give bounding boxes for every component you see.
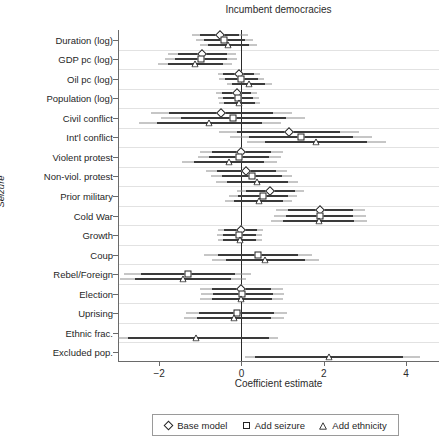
y-axis-tick — [113, 313, 118, 314]
y-axis-title: Seizure — [0, 175, 6, 207]
legend-item-square[interactable]: Add seizure — [242, 420, 305, 431]
y-axis-tick-label: Rebel/Foreign — [0, 269, 113, 280]
estimate-marker-square — [254, 251, 261, 258]
estimate-marker-triangle — [245, 80, 252, 87]
y-axis-line — [118, 30, 119, 362]
estimate-marker-triangle — [193, 334, 200, 341]
y-axis-tick — [113, 98, 118, 99]
y-axis-tick-label: Population (log) — [0, 93, 113, 104]
x-axis-tick — [241, 361, 242, 366]
grid-line — [118, 89, 439, 90]
estimate-marker-triangle — [226, 159, 233, 166]
chart-legend: Base modelAdd seizureAdd ethnicity — [152, 414, 399, 436]
grid-line — [118, 108, 439, 109]
plot-panel: −2024 — [118, 30, 439, 362]
estimate-marker-triangle — [206, 119, 213, 126]
y-axis-tick-label: Violent protest — [0, 151, 113, 162]
y-axis-tick — [113, 176, 118, 177]
y-axis-tick — [113, 294, 118, 295]
y-axis-tick — [113, 216, 118, 217]
grid-line — [118, 147, 439, 148]
grid-line — [118, 303, 439, 304]
legend-diamond-icon — [164, 421, 172, 429]
y-axis-tick — [113, 352, 118, 353]
y-axis-tick-label: Non-viol. protest — [0, 171, 113, 182]
y-axis-tick — [113, 79, 118, 80]
estimate-marker-triangle — [315, 217, 322, 224]
y-axis-tick — [113, 118, 118, 119]
x-axis-line — [118, 361, 439, 362]
legend-triangle-icon — [319, 421, 327, 429]
estimate-marker-triangle — [225, 41, 232, 48]
y-axis-tick-label: Excluded pop. — [0, 347, 113, 358]
y-axis-tick-label: Ethnic frac. — [0, 327, 113, 338]
y-axis-tick — [113, 40, 118, 41]
y-axis-tick — [113, 235, 118, 236]
y-axis-tick — [113, 255, 118, 256]
grid-line — [118, 284, 439, 285]
estimate-marker-triangle — [313, 139, 320, 146]
y-axis-tick-label: Coup — [0, 249, 113, 260]
y-axis-tick-label: Duration (log) — [0, 34, 113, 45]
legend-item-diamond[interactable]: Base model — [164, 420, 227, 431]
y-axis-tick-label: Oil pc (log) — [0, 73, 113, 84]
legend-square-icon — [242, 421, 250, 429]
grid-line — [118, 50, 439, 51]
x-axis-tick — [159, 361, 160, 366]
grid-line — [118, 323, 439, 324]
estimate-marker-square — [298, 134, 305, 141]
grid-line — [118, 342, 439, 343]
estimate-marker-square — [236, 153, 243, 160]
chart-title: Incumbent democracies — [118, 4, 439, 15]
estimate-marker-triangle — [254, 178, 261, 185]
estimate-marker-triangle — [325, 354, 332, 361]
chart-root: Incumbent democracies Duration (log)GDP … — [0, 0, 439, 444]
x-axis-tick — [324, 361, 325, 366]
y-axis-labels: Duration (log)GDP pc (log)Oil pc (log)Po… — [0, 30, 113, 362]
estimate-marker-triangle — [192, 61, 199, 68]
y-axis-tick-label: Civil conflict — [0, 112, 113, 123]
y-axis-tick — [113, 137, 118, 138]
y-axis-tick-label: Growth — [0, 230, 113, 241]
y-axis-tick-label: Int'l conflict — [0, 132, 113, 143]
x-axis-title: Coefficient estimate — [118, 378, 439, 389]
y-axis-tick-label: Cold War — [0, 210, 113, 221]
estimate-marker-triangle — [236, 237, 243, 244]
grid-line — [118, 206, 439, 207]
estimate-marker-triangle — [180, 276, 187, 283]
y-axis-tick — [113, 196, 118, 197]
grid-line — [118, 167, 439, 168]
estimate-marker-triangle — [236, 100, 243, 107]
y-axis-tick-label: Election — [0, 288, 113, 299]
estimate-marker-square — [238, 75, 245, 82]
grid-line — [118, 69, 439, 70]
y-axis-tick-label: Uprising — [0, 308, 113, 319]
y-axis-tick-label: GDP pc (log) — [0, 54, 113, 65]
estimate-marker-square — [230, 114, 237, 121]
legend-label: Base model — [177, 420, 227, 431]
estimate-marker-triangle — [262, 256, 269, 263]
y-axis-tick — [113, 274, 118, 275]
grid-line — [118, 264, 439, 265]
estimate-marker-triangle — [255, 198, 262, 205]
grid-line — [118, 186, 439, 187]
legend-item-triangle[interactable]: Add ethnicity — [319, 420, 386, 431]
y-axis-tick — [113, 333, 118, 334]
legend-label: Add ethnicity — [332, 420, 386, 431]
x-axis-tick — [406, 361, 407, 366]
legend-label: Add seizure — [255, 420, 305, 431]
grid-line — [118, 128, 439, 129]
grid-line — [118, 245, 439, 246]
estimate-marker-triangle — [231, 315, 238, 322]
y-axis-tick — [113, 157, 118, 158]
estimate-marker-triangle — [238, 295, 245, 302]
grid-line — [118, 225, 439, 226]
y-axis-tick-label: Prior military — [0, 191, 113, 202]
y-axis-tick — [113, 59, 118, 60]
